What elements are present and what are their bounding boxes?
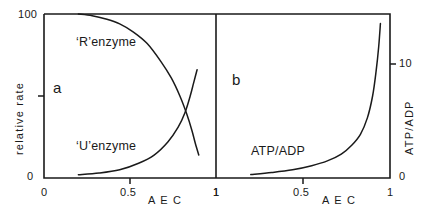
curve-u-enzyme xyxy=(78,70,197,175)
panel-a-xtick-label-0: 0 xyxy=(41,187,47,198)
panel-a-xtick-label-half: 0.5 xyxy=(120,187,136,198)
panel-a-letter: a xyxy=(53,80,61,95)
panel-a-x-axis-title: A E C xyxy=(148,195,182,206)
figure-container: 100 0 0 0.5 1 relative rate A E C a ‘R’e… xyxy=(0,0,430,214)
panel-b-letter: b xyxy=(232,72,240,87)
panel-b-xtick-label-left: 1 xyxy=(213,187,219,198)
panel-a-y-axis-title: relative rate xyxy=(14,82,25,155)
panel-a-ytick-label-0: 0 xyxy=(27,171,33,182)
panel-a-ytick-label-100: 100 xyxy=(18,9,37,20)
panel-b-xtick-label-right: 1 xyxy=(387,187,393,198)
panel-b-y-axis-title: ATP/ADP xyxy=(404,100,415,155)
plot-canvas xyxy=(0,0,430,214)
panel-b-x-axis-title: A E C xyxy=(322,195,356,206)
curve-label-atp-adp: ATP/ADP xyxy=(251,145,305,158)
panel-b-xtick-label-half: 0.5 xyxy=(293,187,309,198)
panel-b-ytick-label-0: 0 xyxy=(399,171,405,182)
curve-label-r-enzyme: ‘R’enzyme xyxy=(76,36,136,49)
panel-b-ytick-label-10: 10 xyxy=(399,58,412,69)
curve-label-u-enzyme: ‘U’enzyme xyxy=(76,140,136,153)
